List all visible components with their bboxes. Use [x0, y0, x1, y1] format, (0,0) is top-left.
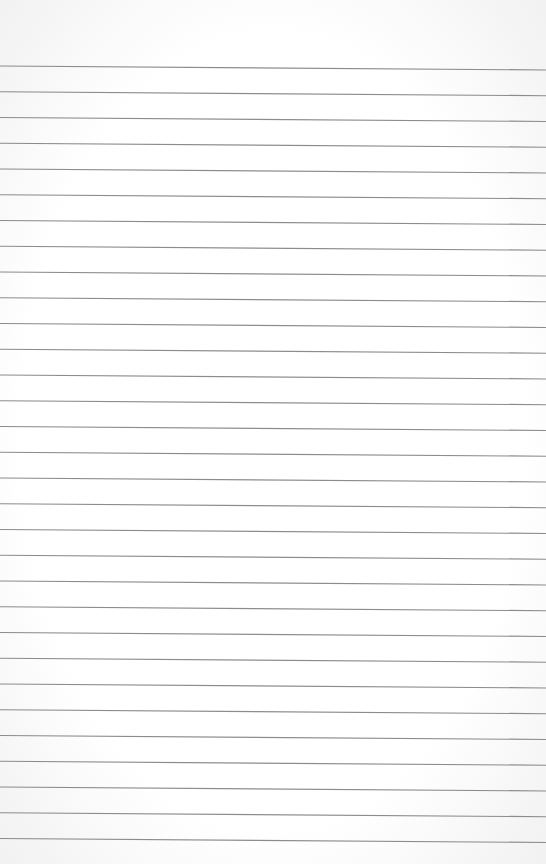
ruled-line	[0, 581, 546, 585]
ruled-line	[0, 633, 546, 637]
ruled-line	[0, 658, 546, 662]
lined-paper-sheet	[0, 0, 546, 864]
ruled-line	[0, 813, 546, 817]
ruled-line	[0, 736, 546, 740]
ruled-line	[0, 427, 546, 431]
ruled-line	[0, 221, 546, 225]
ruled-line	[0, 66, 546, 70]
ruled-line	[0, 787, 546, 791]
ruled-line	[0, 504, 546, 508]
ruled-line	[0, 555, 546, 559]
ruled-line	[0, 349, 546, 353]
ruled-line	[0, 272, 546, 276]
ruled-line	[0, 92, 546, 96]
ruled-line	[0, 143, 546, 147]
ruled-line	[0, 118, 546, 122]
ruled-line	[0, 478, 546, 482]
ruled-line	[0, 375, 546, 379]
ruled-line	[0, 298, 546, 302]
ruled-line	[0, 710, 546, 714]
ruled-line	[0, 530, 546, 534]
ruled-line	[0, 684, 546, 688]
ruled-line	[0, 195, 546, 199]
ruled-line	[0, 607, 546, 611]
ruled-line	[0, 401, 546, 405]
ruled-line	[0, 324, 546, 328]
ruled-lines	[0, 0, 546, 864]
ruled-line	[0, 839, 546, 843]
ruled-line	[0, 452, 546, 456]
ruled-line	[0, 246, 546, 250]
ruled-line	[0, 169, 546, 173]
ruled-line	[0, 761, 546, 765]
